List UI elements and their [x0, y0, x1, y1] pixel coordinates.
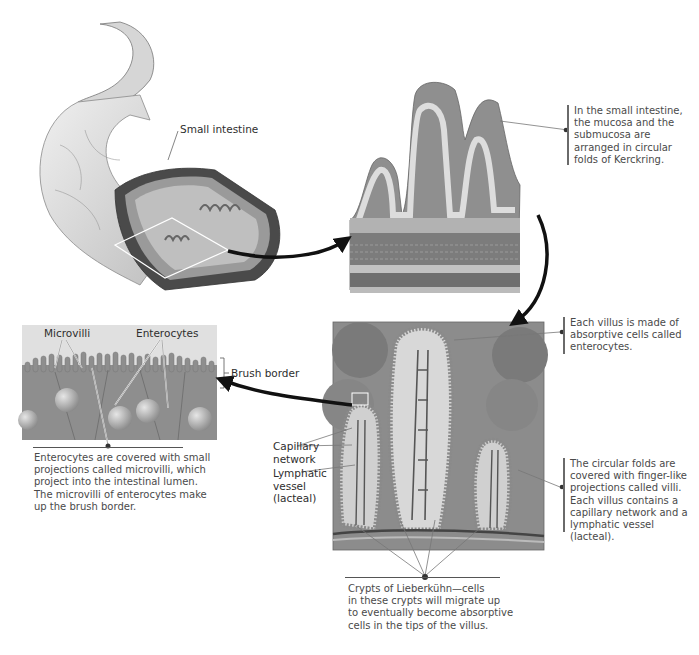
capillary-network-label: Capillary network [273, 440, 319, 465]
villus-illustration [297, 322, 560, 576]
enterocytes-illustration [18, 325, 229, 449]
caption-line: up the brush border. [34, 501, 210, 513]
caption-line: folds of Kerckring. [574, 154, 683, 166]
caption-line: cells in the tips of the villus. [348, 620, 513, 632]
caption-line: Each villus contains a [570, 495, 699, 507]
caption-line: submucosa are [574, 129, 683, 141]
caption-line: The circular folds are [570, 458, 699, 470]
brush-border-label: Brush border [231, 367, 299, 380]
label-line: vessel [273, 480, 327, 493]
villus-caption: Each villus is made of absorptive cells … [570, 317, 682, 354]
label-line: network [273, 453, 319, 466]
microvilli-label: Microvilli [44, 327, 90, 340]
caption-line: The microvilli of enterocytes make [34, 489, 210, 501]
caption-line: Crypts of Lieberkühn—cells [348, 583, 513, 595]
circular-folds-villi-caption: The circular folds are covered with fing… [570, 458, 699, 543]
caption-line: covered with finger-like [570, 470, 699, 482]
caption-line: lymphatic vessel (lacteal). [570, 519, 699, 543]
lymphatic-vessel-label: Lymphatic vessel (lacteal) [273, 467, 327, 505]
caption-line: arranged in circular [574, 142, 683, 154]
caption-line: projections called villi. [570, 482, 699, 494]
enterocytes-label: Enterocytes [136, 327, 198, 340]
label-line: Lymphatic [273, 467, 327, 480]
small-intestine-label: Small intestine [180, 123, 258, 136]
caption-bar [563, 317, 565, 354]
caption-line: in these crypts will migrate up [348, 595, 513, 607]
enterocytes-caption: Enterocytes are covered with small proje… [34, 452, 210, 513]
crypts-caption: Crypts of Lieberkühn—cells in these cryp… [348, 583, 513, 632]
caption-line: projections called microvilli, which [34, 464, 210, 476]
label-line: Capillary [273, 440, 319, 453]
caption-bar [567, 105, 569, 165]
caption-line: capillary network and a [570, 507, 699, 519]
caption-line: Each villus is made of [570, 317, 682, 329]
small-intestine-illustration [40, 22, 280, 290]
caption-rule [33, 447, 183, 448]
caption-line: enterocytes. [570, 341, 682, 353]
caption-line: Enterocytes are covered with small [34, 452, 210, 464]
circular-folds-illustration [350, 82, 568, 293]
caption-bar [563, 458, 565, 532]
caption-line: the mucosa and the [574, 117, 683, 129]
caption-line: absorptive cells called [570, 329, 682, 341]
caption-line: In the small intestine, [574, 105, 683, 117]
folds-caption: In the small intestine, the mucosa and t… [574, 105, 683, 166]
caption-line: to eventually become absorptive [348, 607, 513, 619]
label-line: (lacteal) [273, 492, 327, 505]
caption-rule [345, 577, 500, 578]
caption-line: project into the intestinal lumen. [34, 476, 210, 488]
